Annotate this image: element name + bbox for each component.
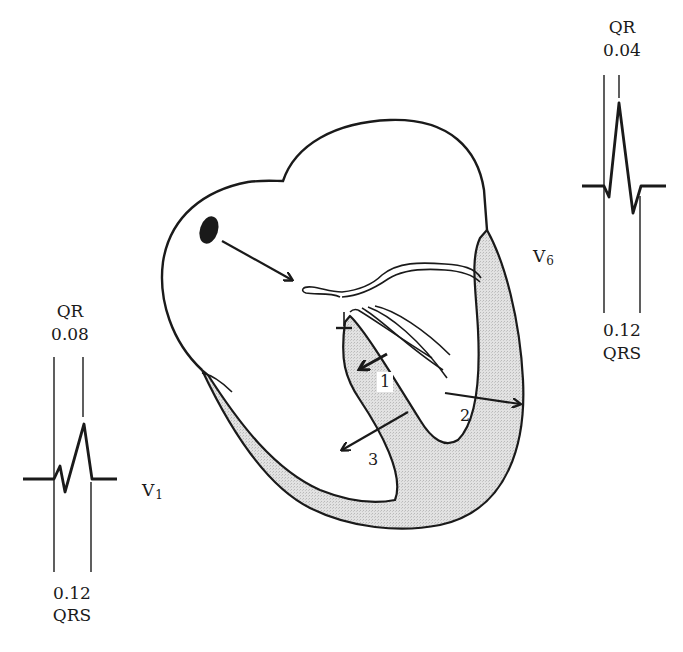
vector-3-label: 3	[368, 452, 378, 468]
diagram-canvas	[0, 0, 683, 652]
ecg-v1	[23, 357, 117, 572]
vector-1-label: 1	[380, 374, 390, 390]
lead-v6-subscript: 6	[546, 254, 554, 268]
av-node-bundle	[303, 263, 481, 297]
v6-qr-duration: 0.04	[603, 42, 641, 59]
v6-qrs-duration: 0.12	[603, 322, 641, 339]
v1-qrs-label: QRS	[53, 607, 91, 624]
lead-v1-subscript: 1	[155, 488, 163, 502]
ecg-v6	[582, 75, 666, 313]
lead-v1-name: V	[142, 480, 154, 500]
sa-to-av-arrow	[222, 241, 292, 280]
heart-conduction-diagram: QR 0.08 0.12 QRS V1 QR 0.04 0.12 QRS V6 …	[0, 0, 683, 652]
lead-v6-name: V	[533, 246, 545, 266]
vector-2-label: 2	[460, 408, 470, 424]
v1-qr-label: QR	[57, 303, 84, 320]
v1-qr-duration: 0.08	[51, 326, 89, 343]
heart-outline	[162, 120, 487, 370]
v6-qrs-label: QRS	[603, 345, 641, 362]
sa-node	[196, 214, 222, 246]
ventricular-myocardium	[202, 230, 523, 529]
v6-qr-label: QR	[609, 19, 636, 36]
lead-v6-label: V6	[533, 248, 554, 265]
v1-qrs-duration: 0.12	[53, 585, 91, 602]
lead-v1-label: V1	[142, 482, 163, 499]
